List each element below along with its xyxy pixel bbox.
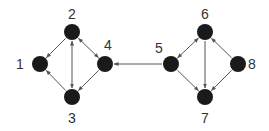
graph-canvas: 12345678	[0, 0, 269, 131]
node-6	[197, 24, 213, 40]
edge-5-6	[178, 38, 199, 58]
edge-2-1	[46, 38, 65, 57]
node-label-5: 5	[155, 40, 163, 56]
node-label-1: 1	[16, 56, 24, 72]
node-8	[230, 56, 246, 72]
node-label-8: 8	[248, 56, 256, 72]
edge-8-7	[211, 70, 231, 90]
edge-5-7	[177, 70, 198, 90]
edge-3-1	[46, 70, 65, 90]
node-7	[197, 89, 213, 105]
node-1	[32, 56, 48, 72]
node-label-2: 2	[68, 6, 76, 22]
node-2	[64, 24, 80, 40]
node-4	[97, 56, 113, 72]
directed-graph-diagram: 12345678	[0, 0, 269, 131]
node-label-7: 7	[201, 110, 209, 126]
edges-layer	[46, 38, 231, 91]
node-label-3: 3	[68, 110, 76, 126]
edge-4-3	[78, 70, 98, 90]
node-label-4: 4	[104, 37, 112, 53]
node-label-6: 6	[201, 6, 209, 22]
edge-8-6	[211, 38, 231, 57]
node-3	[64, 89, 80, 105]
edge-2-4	[78, 38, 98, 57]
node-5	[163, 56, 179, 72]
labels-layer: 12345678	[16, 6, 256, 126]
